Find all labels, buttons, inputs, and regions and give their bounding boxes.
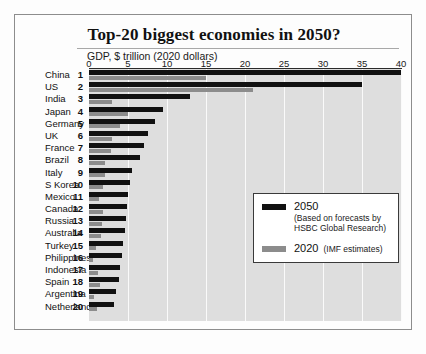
- bar-2020: [89, 234, 101, 238]
- bar-2050: [89, 82, 362, 87]
- row-rank: 2: [61, 81, 83, 93]
- legend-note-2020: (IMF estimates): [323, 244, 382, 254]
- table-row: 9Italy: [15, 167, 413, 179]
- chart-legend: 2050 (Based on forecasts by HSBC Global …: [253, 193, 399, 263]
- bar-2050: [89, 289, 116, 294]
- bar-2020: [89, 210, 103, 214]
- legend-note-2050-line2: HSBC Global Research): [294, 223, 390, 233]
- table-row: 7France: [15, 142, 413, 154]
- row-country-label: UK: [45, 130, 58, 142]
- bar-rows: 1China2US3India4Japan5Germany6UK7France8…: [15, 69, 413, 313]
- row-country-label: Russia: [45, 215, 74, 227]
- row-bars: [89, 81, 401, 93]
- row-country-label: China: [45, 69, 70, 81]
- bar-2050: [89, 94, 190, 99]
- bar-2050: [89, 143, 144, 148]
- row-rank: 9: [61, 167, 83, 179]
- row-country-label: S Korea: [45, 179, 79, 191]
- row-bars: [89, 142, 401, 154]
- bar-2020: [89, 76, 206, 80]
- bar-2020: [89, 222, 102, 226]
- bar-2020: [89, 149, 111, 153]
- legend-item-2020: 2020 (IMF estimates): [262, 242, 390, 255]
- row-bars: [89, 179, 401, 191]
- table-row: 6UK: [15, 130, 413, 142]
- bar-2020: [89, 271, 98, 275]
- row-rank: 6: [61, 130, 83, 142]
- row-country-label: Brazil: [45, 154, 69, 166]
- row-bars: [89, 264, 401, 276]
- bar-2020: [89, 137, 112, 141]
- row-country-label: Mexico: [45, 191, 75, 203]
- bar-2050: [89, 302, 114, 307]
- row-country-label: US: [45, 81, 58, 93]
- bar-2050: [89, 155, 140, 160]
- chart-title: Top-20 biggest economies in 2050?: [15, 25, 413, 45]
- row-bars: [89, 106, 401, 118]
- bar-2050: [89, 131, 148, 136]
- row-bars: [89, 130, 401, 142]
- row-bars: [89, 288, 401, 300]
- bar-2020: [89, 100, 112, 104]
- chart-screenshot: Top-20 biggest economies in 2050? GDP, $…: [0, 0, 426, 354]
- table-row: 10S Korea: [15, 179, 413, 191]
- legend-swatch-2020-icon: [262, 246, 286, 252]
- bar-2020: [89, 197, 99, 201]
- bar-2050: [89, 204, 127, 209]
- bar-2050: [89, 180, 130, 185]
- table-row: 5Germany: [15, 118, 413, 130]
- row-country-label: India: [45, 93, 66, 105]
- bar-2020: [89, 124, 120, 128]
- legend-note-2050-line1: (Based on forecasts by: [294, 213, 390, 223]
- bar-2050: [89, 70, 401, 75]
- row-bars: [89, 154, 401, 166]
- row-bars: [89, 93, 401, 105]
- row-country-label: Italy: [45, 167, 62, 179]
- legend-label-2020: 2020: [294, 242, 318, 255]
- bar-2020: [89, 173, 105, 177]
- row-country-label: Spain: [45, 276, 69, 288]
- legend-item-2050: 2050: [262, 200, 390, 213]
- row-country-label: Turkey: [45, 240, 74, 252]
- bar-2020: [89, 283, 100, 287]
- bar-2020: [89, 161, 105, 165]
- bar-2050: [89, 228, 125, 233]
- row-bars: [89, 301, 401, 313]
- table-row: 17Indonesia: [15, 264, 413, 276]
- bar-2050: [89, 192, 128, 197]
- bar-2050: [89, 277, 119, 282]
- row-bars: [89, 118, 401, 130]
- table-row: 4Japan: [15, 106, 413, 118]
- bar-2020: [89, 295, 94, 299]
- title-divider: [77, 48, 399, 49]
- legend-label-2050: 2050: [294, 200, 318, 213]
- row-country-label: Philippines: [45, 252, 91, 264]
- row-country-label: Indonesia: [45, 264, 86, 276]
- row-country-label: Canada: [45, 203, 78, 215]
- row-country-label: Argentina: [45, 288, 86, 300]
- bar-2020: [89, 185, 103, 189]
- table-row: 8Brazil: [15, 154, 413, 166]
- bar-2050: [89, 265, 120, 270]
- bar-2050: [89, 107, 163, 112]
- bar-2020: [89, 112, 128, 116]
- bar-2020: [89, 246, 96, 250]
- table-row: 19Argentina: [15, 288, 413, 300]
- bar-2050: [89, 253, 122, 258]
- bar-2020: [89, 307, 97, 311]
- bar-2050: [89, 216, 126, 221]
- table-row: 3India: [15, 93, 413, 105]
- row-bars: [89, 167, 401, 179]
- legend-swatch-2050-icon: [262, 204, 286, 210]
- table-row: 18Spain: [15, 276, 413, 288]
- bar-2020: [89, 258, 93, 262]
- row-country-label: Germany: [45, 118, 84, 130]
- table-row: 1China: [15, 69, 413, 81]
- bar-2020: [89, 88, 253, 92]
- row-country-label: Australia: [45, 227, 82, 239]
- row-bars: [89, 276, 401, 288]
- table-row: 2US: [15, 81, 413, 93]
- row-country-label: France: [45, 142, 75, 154]
- bar-2050: [89, 241, 123, 246]
- bar-2050: [89, 168, 132, 173]
